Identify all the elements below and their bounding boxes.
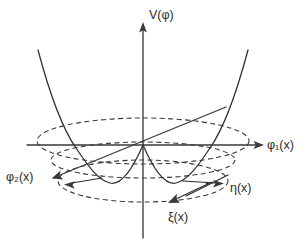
vertical-axis-group	[139, 22, 147, 238]
horizontal-axis-label-text: φ₁(x)	[267, 138, 294, 152]
tangent-line-at-minimum	[186, 175, 228, 196]
left-valley-arrow-group	[64, 178, 102, 189]
mexican-hat-potential-diagram: V(φ) φ₁(x) φ₂(x) η(x) ξ(x)	[0, 0, 304, 247]
depth-axis-label: φ₂(x)	[6, 170, 34, 184]
xi-direction-line	[176, 182, 212, 199]
left-valley-arrowhead	[64, 181, 75, 189]
mexican-hat-figure: V(φ) φ₁(x) φ₂(x) η(x) ξ(x)	[0, 0, 304, 247]
vertical-axis-label-text: V(φ)	[149, 8, 174, 22]
vertical-axis-label: V(φ)	[149, 8, 174, 22]
eta-label-text: η(x)	[230, 181, 252, 195]
left-valley-line	[72, 178, 102, 183]
horizontal-axis-group	[27, 141, 264, 149]
xi-label-text: ξ(x)	[168, 210, 188, 224]
depth-axis-label-text: φ₂(x)	[6, 170, 34, 184]
xi-label: ξ(x)	[168, 210, 188, 224]
xi-direction-arrow-group	[168, 182, 212, 203]
vacuum-point-marker	[206, 182, 209, 185]
horizontal-axis-label: φ₁(x)	[267, 138, 294, 152]
eta-label: η(x)	[230, 181, 252, 195]
